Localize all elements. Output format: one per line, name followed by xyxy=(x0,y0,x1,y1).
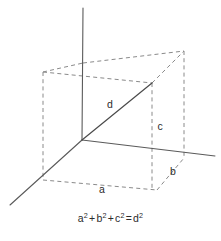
figure-root: d c b a a2+b2+c2=d2 xyxy=(0,0,221,241)
edge-top-above-origin-to-top-back-right xyxy=(83,51,184,63)
x-axis xyxy=(10,140,82,205)
edge-top-front-mid-to-top-back-right xyxy=(152,51,184,83)
label-b: b xyxy=(170,165,176,177)
y-axis xyxy=(82,140,215,156)
formula-exp-c: 2 xyxy=(120,211,124,220)
z-axis xyxy=(82,8,83,140)
label-c: c xyxy=(157,120,162,132)
label-a: a xyxy=(99,183,105,195)
space-diagonal-d-line xyxy=(82,83,152,140)
formula-caption: a2+b2+c2=d2 xyxy=(0,212,221,224)
formula-plus-2: + xyxy=(107,212,115,224)
edge-top-back-left-to-top-above-origin xyxy=(43,63,83,72)
label-d: d xyxy=(107,98,113,110)
formula-exp-b: 2 xyxy=(102,211,106,220)
edge-top-back-left-to-top-front-mid xyxy=(43,72,152,83)
formula-exp-d: 2 xyxy=(139,211,143,220)
three-d-distance-diagram: d c b a xyxy=(0,0,221,241)
formula-equals: = xyxy=(125,212,133,224)
